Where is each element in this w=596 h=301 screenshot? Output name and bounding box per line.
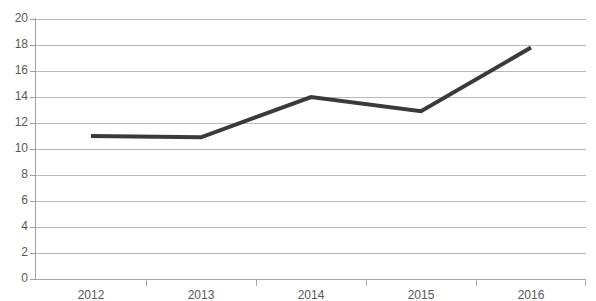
y-axis-tick (30, 175, 36, 176)
y-axis-tick (30, 149, 36, 150)
y-axis-tick-label: 16 (2, 63, 28, 77)
gridline (36, 149, 586, 150)
x-axis-tick-label: 2014 (276, 288, 346, 301)
gridline (36, 45, 586, 46)
y-axis-tick (30, 201, 36, 202)
gridline (36, 175, 586, 176)
x-axis-line (36, 279, 586, 280)
y-axis-tick-label: 2 (2, 245, 28, 259)
y-axis-tick-label: 20 (2, 11, 28, 25)
y-axis-tick-label: 14 (2, 89, 28, 103)
gridline (36, 19, 586, 20)
gridline (36, 201, 586, 202)
y-axis-tick (30, 97, 36, 98)
x-axis-right-cap (585, 279, 586, 286)
y-axis-tick (30, 279, 36, 280)
y-axis-tick-label: 10 (2, 141, 28, 155)
y-axis-tick-label: 8 (2, 167, 28, 181)
x-axis-tick-label: 2016 (496, 288, 566, 301)
y-axis-tick (30, 253, 36, 254)
gridline (36, 227, 586, 228)
y-axis-tick (30, 45, 36, 46)
gridline (36, 97, 586, 98)
x-axis-tick (476, 279, 477, 286)
y-axis-tick (30, 71, 36, 72)
plot-area (36, 19, 586, 279)
y-axis-tick-label: 18 (2, 37, 28, 51)
x-axis-tick (256, 279, 257, 286)
y-axis-labels: 20181614121086420 (0, 0, 28, 301)
y-axis-tick-label: 4 (2, 219, 28, 233)
x-axis-tick (366, 279, 367, 286)
y-axis-tick (30, 123, 36, 124)
x-axis-tick-label: 2012 (56, 288, 126, 301)
gridline (36, 71, 586, 72)
y-axis-tick-label: 0 (2, 271, 28, 285)
y-axis-tick-label: 12 (2, 115, 28, 129)
chart-title (150, 0, 480, 2)
gridline (36, 253, 586, 254)
y-axis-tick (30, 19, 36, 20)
x-axis-tick (146, 279, 147, 286)
gridline (36, 123, 586, 124)
y-axis-tick (30, 227, 36, 228)
y-axis-tick-label: 6 (2, 193, 28, 207)
x-axis-tick-label: 2015 (386, 288, 456, 301)
line-chart: 20181614121086420 20122013201420152016 (0, 0, 596, 301)
x-axis-tick-label: 2013 (166, 288, 236, 301)
